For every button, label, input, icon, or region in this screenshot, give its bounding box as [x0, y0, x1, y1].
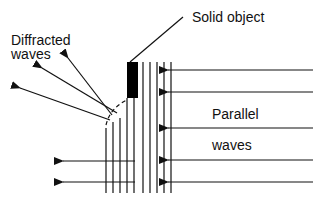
diffracted-arrows — [20, 58, 117, 120]
outgoing-arrows — [63, 161, 135, 182]
incoming-arrows — [168, 70, 313, 182]
wavefront-lines — [106, 62, 171, 193]
solid-object-leader-line — [130, 17, 183, 62]
label-diffracted-waves: waves — [10, 46, 51, 62]
label-parallel-waves: waves — [211, 137, 252, 153]
solid-object — [127, 62, 138, 98]
diffraction-diagram: Solid object Diffracted waves Parallel w… — [0, 0, 323, 204]
label-parallel: Parallel — [212, 106, 259, 122]
label-solid-object: Solid object — [192, 9, 264, 25]
